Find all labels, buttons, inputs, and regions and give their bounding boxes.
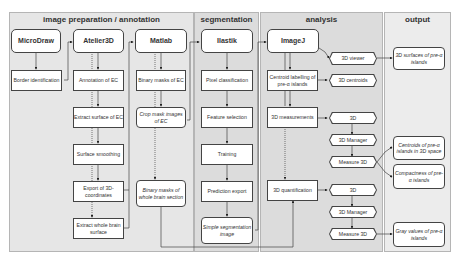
plugin-3d-manager: 3D Manager: [329, 134, 377, 146]
tool-atelier3d: Atelier3D: [73, 29, 124, 53]
tool-matlab: Matlab: [135, 29, 187, 53]
output-3d-surfaces: 3D surfaces of pre-α islands: [393, 47, 445, 70]
step-extract-whole-brain-surface: Extract whole brain surface: [73, 218, 124, 239]
plugin-label: 3D Manager: [330, 207, 376, 217]
plugin-label: Measure 3D: [330, 157, 376, 167]
step-3d-quantification: 3D quantification: [267, 180, 318, 201]
plugin-3d-2: 3D: [329, 184, 377, 196]
step-simple-segmentation-image: Simple segmentation image: [201, 217, 253, 244]
plugin-3d-manager-2: 3D Manager: [329, 206, 377, 218]
panel-title: segmentation: [195, 15, 258, 24]
plugin-3d-viewer: 3D viewer: [329, 52, 377, 65]
step-crop-mask-images-ec: Crop mask images of EC: [136, 107, 186, 128]
output-gray-values: Gray values of pre-α islands: [393, 222, 445, 247]
plugin-label: 3D: [330, 185, 376, 195]
tool-microdraw: MicroDraw: [11, 29, 61, 53]
panel-title: image preparation / annotation: [10, 15, 193, 24]
step-feature-selection: Feature selection: [201, 107, 253, 128]
panel-title: analysis: [261, 15, 382, 24]
step-centroid-labelling: Centroid labelling of pre-α islands: [267, 70, 318, 91]
plugin-label: 3D: [330, 113, 376, 123]
plugin-3d-centroids: 3D centroids: [329, 74, 377, 87]
panel-title: output: [385, 15, 450, 24]
plugin-measure-3d: Measure 3D: [329, 156, 377, 168]
step-binary-masks-whole-brain: Binary masks of whole brain section: [136, 180, 186, 207]
plugin-label: 3D centroids: [330, 75, 376, 86]
step-3d-measurements: 3D measurements: [267, 107, 318, 128]
output-compactness: Compactness of pre-α islands: [393, 164, 445, 189]
plugin-measure-3d-2: Measure 3D: [329, 228, 377, 240]
plugin-label: Measure 3D: [330, 229, 376, 239]
tool-imagej: ImageJ: [267, 29, 319, 53]
step-border-identification: Border identification: [11, 70, 62, 91]
plugin-3d: 3D: [329, 112, 377, 124]
step-surface-smoothing: Surface smoothing: [73, 144, 124, 165]
plugin-label: 3D Manager: [330, 135, 376, 145]
step-prediction-export: Prediction export: [201, 181, 253, 202]
step-binary-masks-ec: Binary masks of EC: [136, 70, 186, 91]
step-annotation-ec: Annotation of EC: [73, 70, 124, 91]
step-pixel-classification: Pixel classification: [201, 70, 253, 91]
step-extract-surface-ec: Extract surface of EC: [73, 107, 124, 128]
step-training: Training: [201, 144, 253, 165]
plugin-label: 3D viewer: [330, 53, 376, 64]
step-export-3d-coordinates: Export of 3D-coordinates: [73, 181, 124, 202]
output-centroids-3d-space: Centroids of pre-α islands in 3D space: [393, 136, 445, 160]
tool-ilastik: Ilastik: [201, 29, 253, 53]
